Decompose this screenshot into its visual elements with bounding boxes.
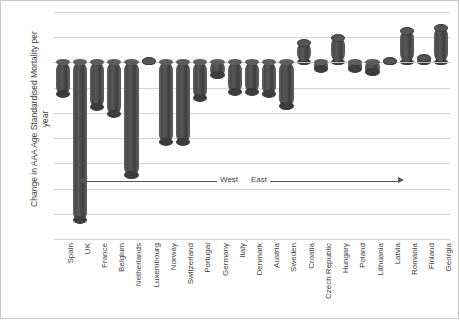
annotation-label-west: West [217, 175, 241, 184]
bar-column[interactable] [243, 12, 260, 239]
x-axis-tick-label: Poland [358, 243, 367, 268]
x-axis-tick-label: Georgia [444, 243, 453, 271]
bar[interactable] [90, 62, 104, 107]
bar[interactable] [297, 42, 311, 62]
bar-column[interactable] [278, 12, 295, 239]
bar-column[interactable] [347, 12, 364, 239]
bar-column[interactable] [71, 12, 88, 239]
bar[interactable] [383, 60, 397, 63]
bar[interactable] [193, 62, 207, 99]
x-axis-tick-label: Netherlands [134, 243, 143, 286]
bar-column[interactable] [329, 12, 346, 239]
chart-container: Change in AAA Age Standardised Mortality… [0, 0, 460, 320]
plot-area: 0.20.10-0.1-0.2-0.3-0.4-0.5-0.6-0.7 West… [54, 12, 450, 239]
bar-column[interactable] [106, 12, 123, 239]
bar-column[interactable] [88, 12, 105, 239]
bar[interactable] [314, 62, 328, 70]
bar[interactable] [210, 62, 224, 76]
x-axis-tick-label: Finland [427, 243, 436, 269]
bar[interactable] [245, 62, 259, 92]
bar-column[interactable] [261, 12, 278, 239]
bar[interactable] [417, 57, 431, 62]
gridline [54, 239, 450, 240]
annotation-arrow-head-left [79, 177, 85, 183]
annotation-arrow-head-right [398, 177, 404, 183]
x-axis-tick-label: Belgium [117, 243, 126, 272]
x-axis-tick-label: Italy [238, 243, 247, 258]
x-axis-tick-label: Portugal [203, 243, 212, 273]
bar[interactable] [262, 62, 276, 95]
bar-column[interactable] [416, 12, 433, 239]
x-axis-tick-label: Sweden [289, 243, 298, 272]
x-axis-tick-label: Germany [221, 243, 230, 276]
bar[interactable] [124, 62, 138, 176]
y-axis-title: Change in AAA Age Standardised Mortality… [29, 24, 51, 214]
x-axis-tick-label: Luxembourg [152, 243, 161, 287]
x-axis-tick-label: Spain [66, 243, 75, 263]
bar[interactable] [400, 30, 414, 63]
bar-column[interactable] [295, 12, 312, 239]
bar[interactable] [331, 37, 345, 62]
x-axis-tick-label: Latvia [393, 243, 402, 264]
x-axis-tick-label: Croatia [307, 243, 316, 269]
bar-column[interactable] [123, 12, 140, 239]
bar-column[interactable] [381, 12, 398, 239]
bar-column[interactable] [192, 12, 209, 239]
x-axis-tick-label: Denmark [255, 243, 264, 275]
bar-column[interactable] [157, 12, 174, 239]
bar-column[interactable] [364, 12, 381, 239]
bar-column[interactable] [312, 12, 329, 239]
bar-column[interactable] [140, 12, 157, 239]
x-axis-tick-label: UK [83, 243, 92, 254]
bar[interactable] [159, 62, 173, 143]
bar[interactable] [434, 27, 448, 62]
bar-column[interactable] [398, 12, 415, 239]
bar[interactable] [365, 62, 379, 72]
bar[interactable] [142, 60, 156, 63]
x-axis-tick-label: Romania [410, 243, 419, 275]
bar-series [54, 12, 450, 239]
bar-column[interactable] [433, 12, 450, 239]
bar-column[interactable] [54, 12, 71, 239]
bar[interactable] [348, 62, 362, 70]
bar-column[interactable] [226, 12, 243, 239]
bar-column[interactable] [209, 12, 226, 239]
x-axis-tick-label: France [100, 243, 109, 268]
x-axis-labels: SpainUKFranceBelgiumNetherlandsLuxembour… [54, 243, 450, 313]
annotation-label-east: East [248, 175, 270, 184]
annotation-line [269, 181, 399, 182]
bar[interactable] [279, 62, 293, 106]
x-axis-tick-label: Norway [169, 243, 178, 270]
bar[interactable] [176, 62, 190, 143]
x-axis-tick-label: Switzerland [186, 243, 195, 284]
x-axis-tick-label: Austria [272, 243, 281, 268]
bar[interactable] [56, 62, 70, 95]
x-axis-tick-label: Czech Republic [324, 243, 333, 299]
bar[interactable] [73, 62, 87, 221]
bar[interactable] [107, 62, 121, 115]
x-axis-tick-label: Hungary [341, 243, 350, 273]
bar-column[interactable] [175, 12, 192, 239]
x-axis-tick-label: Lithuania [376, 243, 385, 275]
bar[interactable] [228, 62, 242, 92]
annotation-line [84, 181, 239, 182]
